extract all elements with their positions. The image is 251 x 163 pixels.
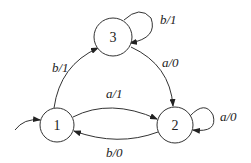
edge-label: a/0	[220, 109, 237, 124]
edge-2-2	[190, 108, 214, 131]
edge-1-2	[73, 108, 157, 119]
state-3: 3	[94, 18, 132, 56]
state-label: 3	[110, 30, 117, 45]
state-2: 2	[157, 107, 193, 143]
edge-label: a/1	[106, 86, 123, 101]
edge-label: a/0	[162, 55, 179, 70]
state-diagram: 3 1 2 b/1 b/1 a/0 a/1 a/0 b/0	[0, 0, 251, 163]
state-label: 2	[172, 118, 179, 133]
state-label: 1	[54, 118, 61, 133]
edge-label: b/1	[52, 60, 69, 75]
state-1: 1	[40, 108, 74, 142]
edge-1-3	[54, 48, 98, 108]
initial-arrow	[15, 120, 40, 130]
edge-label: b/0	[106, 145, 123, 160]
edge-2-1	[74, 131, 158, 139]
edge-label: b/1	[160, 12, 177, 27]
